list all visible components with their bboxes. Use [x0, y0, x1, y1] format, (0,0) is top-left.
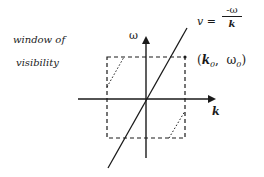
point-k: k: [202, 53, 210, 67]
window-label-line2: visibility: [16, 57, 59, 68]
omega-axis-label: ω: [129, 29, 138, 42]
k-axis-arrow-icon: [208, 95, 216, 103]
point-label: (k0, ω0): [197, 53, 246, 69]
alias-line-top-left: [107, 57, 124, 87]
point-sep: ,: [215, 53, 226, 67]
equation-numerator: -ω: [222, 4, 242, 17]
window-label-line1: window of: [13, 34, 65, 45]
alias-line-bottom-right: [169, 111, 185, 138]
point-omega: ω: [227, 53, 237, 67]
k-axis-label: k: [212, 105, 220, 118]
omega-axis-arrow-icon: [142, 36, 150, 44]
equation-lhs: v =: [197, 15, 216, 28]
equation-denominator: k: [222, 17, 242, 29]
point-marker: [183, 55, 186, 58]
equation-fraction: -ω k: [222, 4, 242, 29]
point-close-paren: ): [241, 53, 246, 67]
velocity-line: [108, 28, 187, 168]
